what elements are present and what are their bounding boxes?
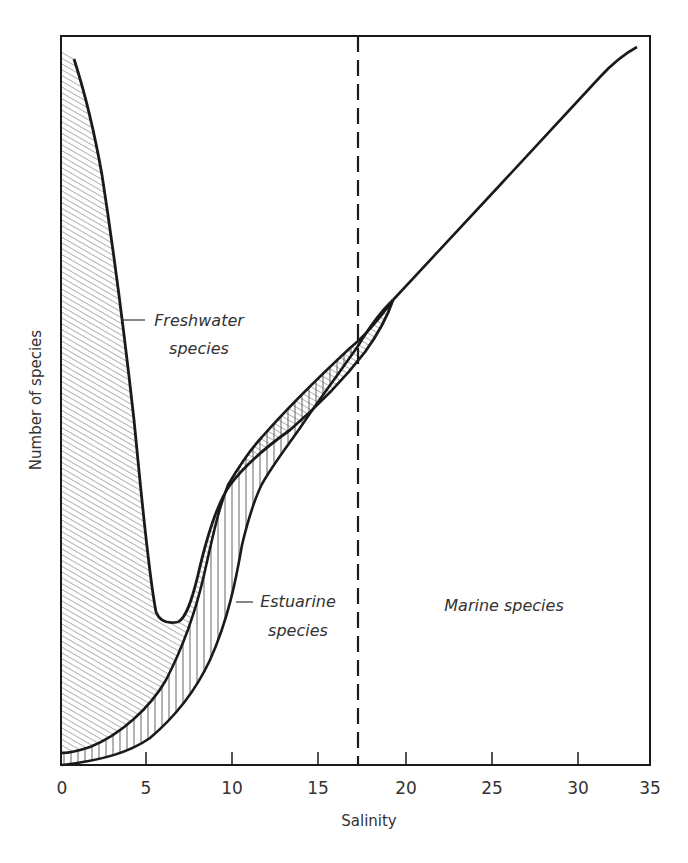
x-tick-label: 15 bbox=[307, 778, 329, 798]
x-tick-label: 35 bbox=[639, 778, 661, 798]
x-tick-label: 5 bbox=[141, 778, 152, 798]
y-axis-title: Number of species bbox=[27, 330, 45, 470]
freshwater-label-line1: Freshwater bbox=[154, 311, 245, 330]
x-tick-label: 0 bbox=[57, 778, 68, 798]
x-tick-label: 20 bbox=[395, 778, 417, 798]
freshwater-hatched-region bbox=[62, 48, 393, 753]
freshwater-label-line2: species bbox=[169, 339, 229, 358]
x-tick-label: 25 bbox=[481, 778, 503, 798]
estuarine-label-line1: Estuarine bbox=[260, 592, 336, 611]
estuarine-label-line2: species bbox=[268, 621, 328, 640]
chart: 05101520253035 Salinity Number of specie… bbox=[0, 0, 688, 863]
x-axis-ticks bbox=[146, 752, 578, 765]
marine-label: Marine species bbox=[444, 596, 563, 615]
marine-curve bbox=[393, 47, 637, 300]
x-tick-label: 30 bbox=[567, 778, 589, 798]
x-tick-label: 10 bbox=[221, 778, 243, 798]
x-axis-title: Salinity bbox=[341, 812, 397, 830]
x-axis-tick-labels: 05101520253035 bbox=[57, 778, 661, 798]
